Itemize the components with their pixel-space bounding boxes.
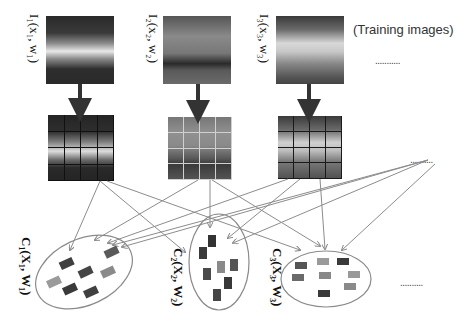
cluster-label-2: C₂(X₂, W₂) xyxy=(170,248,186,306)
cluster-label-3: C₃(X₃, W₃) xyxy=(269,248,285,306)
patch-to-cluster-arrows xyxy=(70,160,435,252)
cluster-3 xyxy=(281,251,371,307)
connections-layer xyxy=(0,0,464,325)
cluster-2 xyxy=(189,214,249,310)
cluster-1 xyxy=(24,221,144,324)
cluster-label-1: C₁(X₁, W₁) xyxy=(18,237,34,295)
ellipsis-bottom: .......... xyxy=(400,277,423,288)
down-arrows xyxy=(80,84,309,112)
